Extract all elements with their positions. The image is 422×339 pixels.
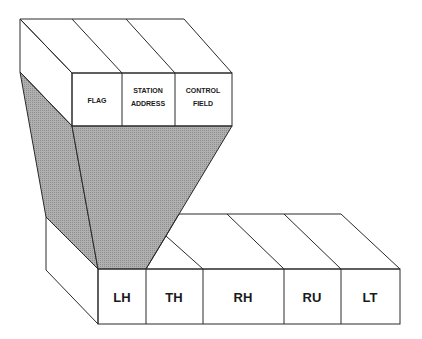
upper-field-flag: FLAG: [87, 97, 107, 104]
field-label-line2: ADDRESS: [131, 100, 166, 107]
lower-field-th: TH: [165, 290, 182, 305]
field-label: FLAG: [87, 97, 107, 104]
lower-field-rh: RH: [234, 290, 253, 305]
lower-field-lh: LH: [113, 290, 130, 305]
upper-field-station-address: STATION ADDRESS: [131, 87, 166, 107]
lower-field-ru: RU: [303, 290, 322, 305]
field-label-line2: FIELD: [193, 100, 213, 107]
field-label-line1: STATION: [133, 87, 163, 94]
upper-field-control-field: CONTROL FIELD: [186, 87, 221, 107]
field-label-line1: CONTROL: [186, 87, 221, 94]
frame-encapsulation-diagram: FLAG STATION ADDRESS CONTROL FIELD LH TH…: [0, 0, 422, 339]
lower-field-lt: LT: [363, 290, 378, 305]
